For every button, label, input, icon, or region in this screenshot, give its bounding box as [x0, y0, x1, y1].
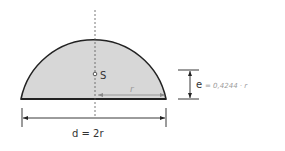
eccentricity-value: = 0,4244 · r	[205, 82, 248, 90]
diameter-dimension	[22, 108, 166, 127]
diameter-label: d = 2r	[72, 128, 104, 139]
semicircle-diagram: S r e = 0,4244 · r d = 2r	[0, 0, 285, 151]
semicircle-shape	[21, 40, 166, 99]
eccentricity-label: e	[196, 79, 202, 90]
centroid-label: S	[100, 70, 106, 81]
centroid-point	[93, 72, 97, 76]
